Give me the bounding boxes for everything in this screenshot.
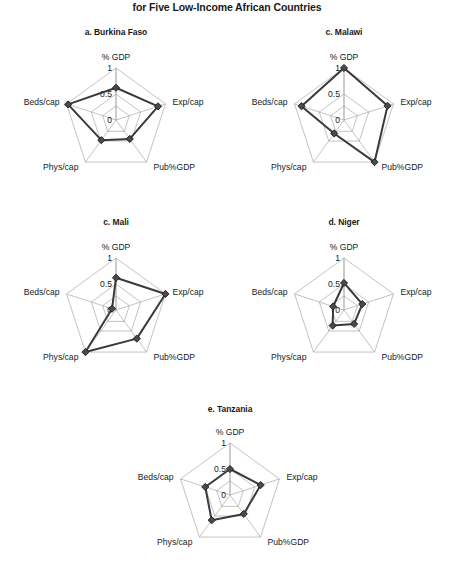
axis-label: Pub%GDP: [154, 352, 196, 362]
radar-panel: c. Mali10.50% GDPExp/capPub%GDPPhys/capB…: [16, 217, 216, 389]
radial-tick-label: 0.5: [100, 279, 112, 289]
radial-tick-label: 0.5: [328, 89, 340, 99]
axis-label: Beds/cap: [138, 472, 174, 482]
radial-tick-label: 1: [107, 253, 112, 263]
radar-panel: e. Tanzania10.50% GDPExp/capPub%GDPPhys/…: [130, 404, 330, 572]
radial-tick-label: 0: [221, 490, 226, 500]
radial-tick-label: 1: [221, 438, 226, 448]
panel-title: c. Mali: [16, 217, 216, 227]
data-point-marker: [208, 517, 215, 524]
axis-label: Pub%GDP: [154, 162, 196, 172]
axis-label: Phys/cap: [271, 352, 307, 362]
axis-spoke: [344, 294, 393, 310]
axis-label: Phys/cap: [157, 537, 193, 547]
axis-label: Exp/cap: [400, 97, 431, 107]
axis-label: % GDP: [102, 242, 131, 252]
panel-title: d. Niger: [244, 217, 444, 227]
radar-panel: c. Malawi10.50% GDPExp/capPub%GDPPhys/ca…: [244, 27, 444, 199]
axis-label: Phys/cap: [43, 352, 79, 362]
radar-plot: 10.50% GDPExp/capPub%GDPPhys/capBeds/cap: [16, 40, 216, 199]
radar-plot: 10.50% GDPExp/capPub%GDPPhys/capBeds/cap: [244, 40, 444, 199]
axis-label: Phys/cap: [43, 162, 79, 172]
radar-plot: 10.50% GDPExp/capPub%GDPPhys/capBeds/cap: [244, 230, 444, 389]
axis-label: Exp/cap: [400, 287, 431, 297]
radial-tick-label: 1: [107, 63, 112, 73]
data-point-marker: [112, 84, 119, 91]
axis-label: Pub%GDP: [382, 162, 424, 172]
axis-label: Beds/cap: [24, 287, 60, 297]
axis-label: Pub%GDP: [382, 352, 424, 362]
axis-label: Phys/cap: [271, 162, 307, 172]
series-polygon: [301, 68, 387, 162]
radar-plot: 10.50% GDPExp/capPub%GDPPhys/capBeds/cap: [16, 230, 216, 389]
radial-tick-label: 0: [107, 115, 112, 125]
axis-label: Exp/cap: [172, 287, 203, 297]
axis-label: Beds/cap: [252, 97, 288, 107]
series-polygon: [68, 88, 158, 140]
axis-label: % GDP: [216, 427, 245, 437]
data-point-marker: [329, 322, 336, 329]
radar-panel: d. Niger10.50% GDPExp/capPub%GDPPhys/cap…: [244, 217, 444, 389]
radar-panel: a. Burkina Faso10.50% GDPExp/capPub%GDPP…: [16, 27, 216, 199]
axis-label: Exp/cap: [172, 97, 203, 107]
axis-label: Exp/cap: [286, 472, 317, 482]
panel-title: e. Tanzania: [130, 404, 330, 414]
axis-label: Beds/cap: [252, 287, 288, 297]
radar-plot: 10.50% GDPExp/capPub%GDPPhys/capBeds/cap: [130, 417, 330, 572]
panel-title: c. Malawi: [244, 27, 444, 37]
axis-label: Pub%GDP: [268, 537, 310, 547]
axis-label: % GDP: [102, 52, 131, 62]
axis-label: % GDP: [330, 242, 359, 252]
axis-label: Beds/cap: [24, 97, 60, 107]
data-point-marker: [112, 274, 119, 281]
axis-spoke: [116, 294, 165, 310]
figure-title: for Five Low-Income African Countries: [0, 1, 454, 13]
series-polygon: [85, 278, 165, 352]
axis-label: % GDP: [330, 52, 359, 62]
radial-tick-label: 1: [335, 253, 340, 263]
radial-tick-label: 0.5: [328, 279, 340, 289]
panel-title: a. Burkina Faso: [16, 27, 216, 37]
radial-tick-label: 0: [335, 115, 340, 125]
